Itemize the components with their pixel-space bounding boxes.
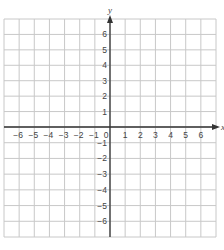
y-tick-label: 1 xyxy=(102,107,107,117)
y-tick-label: 3 xyxy=(102,76,107,86)
y-tick-label: 4 xyxy=(102,60,107,70)
axes xyxy=(4,15,220,237)
y-tick-label: 5 xyxy=(102,45,107,55)
y-tick-label: −5 xyxy=(97,201,107,211)
x-tick-label: 5 xyxy=(183,130,188,140)
x-tick-label: 1 xyxy=(123,130,128,140)
x-tick-label: −5 xyxy=(28,130,38,140)
y-tick-label: −6 xyxy=(97,216,107,226)
y-tick-label: 2 xyxy=(102,91,107,101)
x-tick-label: 6 xyxy=(198,130,203,140)
x-tick-label: 4 xyxy=(168,130,173,140)
x-tick-label: 2 xyxy=(138,130,143,140)
y-tick-label: 6 xyxy=(102,29,107,39)
x-tick-label: 3 xyxy=(153,130,158,140)
x-tick-label: −2 xyxy=(74,130,84,140)
x-tick-label: −3 xyxy=(59,130,69,140)
x-axis-label: x xyxy=(220,122,224,132)
y-tick-label: −3 xyxy=(97,169,107,179)
y-axis-label: y xyxy=(107,5,112,15)
coordinate-plane: xy−6−5−4−3−2−10123456−6−5−4−3−2−1123456 xyxy=(0,0,224,250)
tick-labels: xy−6−5−4−3−2−10123456−6−5−4−3−2−1123456 xyxy=(13,5,224,226)
y-tick-label: −1 xyxy=(97,138,107,148)
x-tick-label: −6 xyxy=(13,130,23,140)
y-tick-label: −2 xyxy=(97,153,107,163)
x-tick-label: −4 xyxy=(44,130,54,140)
y-tick-label: −4 xyxy=(97,185,107,195)
